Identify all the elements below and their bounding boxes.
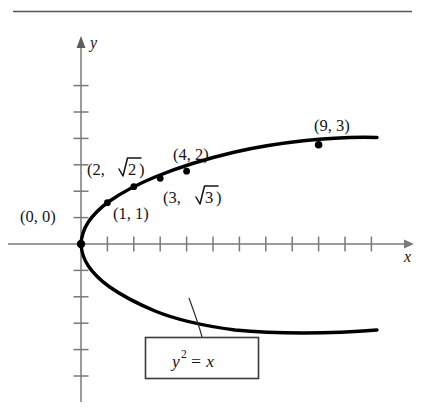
- callout-leader-line: [189, 298, 202, 337]
- point-label-2-radicand: 2: [128, 160, 136, 179]
- point-label-0-0: (0, 0): [20, 207, 56, 226]
- curve-upper-branch: [81, 137, 377, 244]
- y-axis-label: y: [88, 34, 98, 52]
- equation-text: y 2 = x: [170, 348, 214, 371]
- point-marker-3-sqrt3: [157, 175, 164, 182]
- point-label-2-sqrt2: (2, 2 ): [87, 158, 145, 179]
- point-marker-4-2: [183, 168, 190, 175]
- point-marker-2-sqrt2: [130, 183, 137, 190]
- point-label-3-sqrt3: (3, 3 ): [163, 186, 222, 207]
- equation-callout: y 2 = x: [146, 298, 259, 379]
- point-label-3-close: ): [216, 188, 222, 207]
- point-label-3-radicand: 3: [205, 188, 213, 207]
- sqrt-symbol-3: 3: [196, 186, 218, 207]
- y-axis-arrow: [77, 36, 86, 48]
- equation-exponent: 2: [181, 348, 187, 360]
- sqrt-symbol-2: 2: [119, 158, 141, 179]
- equation-tail: = x: [190, 351, 214, 371]
- point-marker-1-1: [104, 199, 111, 206]
- equation-base: y: [170, 351, 180, 371]
- point-label-2-open: (2,: [87, 160, 105, 179]
- point-label-1-1: (1, 1): [113, 204, 149, 223]
- point-marker-9-3: [315, 141, 323, 149]
- point-label-9-3: (9, 3): [314, 116, 350, 135]
- point-label-3-open: (3,: [163, 188, 181, 207]
- point-marker-0-0: [77, 240, 85, 248]
- parabola-figure: x y (0, 0) (1, 1) (2, 2 ) (3, 3 ) (4, 2): [0, 0, 427, 414]
- point-label-4-2: (4, 2): [173, 145, 209, 164]
- curve-lower-branch: [81, 244, 377, 333]
- x-axis-label: x: [403, 248, 411, 265]
- point-label-2-close: ): [139, 160, 145, 179]
